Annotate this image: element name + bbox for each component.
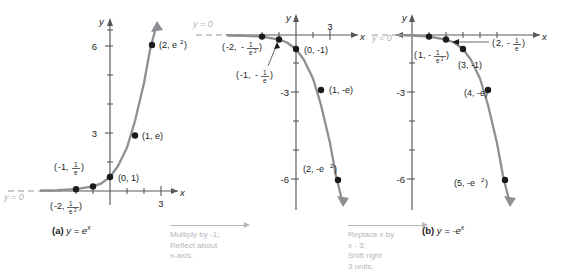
- panel-a-exponential-graph: y x 3 6 3 y = 0 ( -2, 1 ​ e 2 ) ( -1,: [0, 0, 190, 274]
- x-axis-arrowhead-b: [351, 32, 358, 38]
- y-axis-arrowhead-b: [293, 14, 299, 22]
- transition-ab-line3-rest: -axis.: [174, 251, 193, 260]
- point-label-b-2: (0, -1): [304, 45, 328, 55]
- svg-text:1: 1: [249, 41, 253, 48]
- point-label-c-1: ( 2, - 1 e ): [492, 37, 525, 52]
- point-label-c-4-tail: ): [485, 178, 488, 188]
- point-label-b-3: (1, -e): [329, 85, 353, 95]
- svg-text:-1,: -1,: [240, 70, 251, 80]
- svg-text:): ): [446, 50, 449, 60]
- point-label-a-4-tail: ): [184, 40, 187, 50]
- x-axis-label-a: x: [179, 187, 186, 198]
- data-point-c-2: [460, 46, 466, 52]
- exponential-transformation-figure: y x 3 6 3 y = 0 ( -2, 1 ​ e 2 ) ( -1,: [0, 0, 563, 274]
- transition-bc-line1-suffix: by: [384, 230, 395, 239]
- point-label-b-1: ( -1, - 1 e ): [236, 69, 273, 84]
- caption-a-lead: (a): [52, 225, 64, 236]
- y-axis-label-b: y: [285, 12, 292, 23]
- svg-text:-: -: [255, 70, 258, 80]
- x-tick-label-b-3: 3: [327, 21, 332, 32]
- point-label-b-0: ( -2, - 1 e 2 ): [222, 41, 262, 56]
- point-label-a-4-base: (2, e: [159, 40, 177, 50]
- svg-text:-2,: -2,: [226, 42, 237, 52]
- svg-text:2: 2: [254, 49, 257, 54]
- transition-bc-line4: 3 units.: [348, 262, 436, 273]
- svg-text:): ): [522, 38, 525, 48]
- svg-text:2: 2: [441, 57, 444, 62]
- svg-text:(: (: [492, 38, 495, 48]
- asymptote-label-a: y = 0: [3, 192, 24, 202]
- svg-text:2,: 2,: [496, 38, 504, 48]
- svg-text:2: 2: [74, 208, 77, 213]
- transition-b-to-c: Replace x by x - 3; Shift right 3 units.: [348, 221, 436, 272]
- panel-c-svg: y x -3 -6 y = 0 ( 1, - 1 e 2 ) ( 2, - 1: [370, 0, 563, 220]
- data-point-c-4: [502, 177, 508, 183]
- data-point-c-0: [426, 33, 432, 39]
- y-tick-label-c-3: -3: [397, 87, 405, 98]
- svg-text:1: 1: [69, 200, 73, 207]
- transition-ab-line3: x-axis.: [170, 251, 258, 262]
- svg-text:-: -: [241, 42, 244, 52]
- point-label-b-4: (2, -e 2 ): [303, 162, 337, 174]
- curve-arrowhead-b: [337, 196, 349, 207]
- svg-text:-: -: [507, 38, 510, 48]
- panel-b-svg: y x 3 -3 -6 y = 0 ( -2, - 1 e 2 ) ( -1, …: [190, 0, 370, 220]
- leader-arrow-b-1: [274, 42, 280, 49]
- y-tick-label-a-6: 6: [92, 41, 97, 52]
- point-label-a-1: ( -1, 1 e ): [54, 161, 84, 176]
- data-point-c-1: [443, 36, 449, 42]
- data-point-a-1: [90, 183, 96, 189]
- svg-text:e: e: [515, 45, 519, 52]
- point-label-c-2: (3, -1): [458, 60, 482, 70]
- transition-ab-line1: Multiply by -1;: [170, 230, 258, 241]
- data-point-a-4: [149, 42, 155, 48]
- transition-arrow-b-to-c: [348, 221, 436, 229]
- data-point-b-1: [276, 36, 282, 42]
- curve-arrowhead-c: [504, 196, 516, 207]
- svg-text:1: 1: [263, 69, 267, 76]
- svg-text:e: e: [249, 49, 253, 56]
- transition-bc-line1-prefix: Replace: [348, 230, 380, 239]
- x-axis-arrowhead-c: [533, 32, 540, 38]
- point-label-a-2: (0, 1): [118, 173, 139, 183]
- caption-a-exponent: x: [87, 224, 90, 231]
- svg-text:): ): [79, 201, 82, 211]
- transition-bc-line3: Shift right: [348, 251, 436, 262]
- svg-text:(: (: [414, 50, 417, 60]
- transition-bc-line2: x - 3;: [348, 241, 436, 252]
- data-point-b-0: [259, 33, 265, 39]
- caption-a-formula: y = e: [66, 225, 87, 236]
- svg-text:): ): [259, 42, 262, 52]
- point-label-c-4-base: (5, -e: [454, 178, 475, 188]
- y-axis-arrowhead-a: [107, 18, 113, 26]
- svg-text:1: 1: [74, 161, 78, 168]
- svg-text:e: e: [436, 57, 440, 64]
- y-axis-arrowhead-c: [409, 14, 415, 22]
- svg-text:1: 1: [436, 49, 440, 56]
- point-label-c-0: ( 1, - 1 e 2 ): [414, 49, 449, 64]
- transition-ab-line2: Reflect about: [170, 241, 258, 252]
- y-tick-label-b-3: -3: [281, 87, 289, 98]
- svg-text:1: 1: [515, 37, 519, 44]
- point-label-c-4: (5, -e 2 ): [454, 176, 488, 188]
- svg-text:(: (: [236, 70, 239, 80]
- svg-text:1,: 1,: [418, 50, 426, 60]
- svg-text:-: -: [428, 50, 431, 60]
- data-point-a-2: [107, 174, 113, 180]
- transition-bc-line2-rest: - 3;: [352, 241, 366, 250]
- svg-text:-2,: -2,: [54, 201, 65, 211]
- svg-text:(: (: [50, 201, 53, 211]
- panel-a-svg: y x 3 6 3 y = 0 ( -2, 1 ​ e 2 ) ( -1,: [0, 0, 190, 220]
- svg-text:): ): [270, 70, 273, 80]
- y-axis-label-c: y: [401, 12, 408, 23]
- svg-text:-1,: -1,: [58, 162, 69, 172]
- data-point-a-3: [132, 132, 138, 138]
- transition-bc-line1: Replace x by: [348, 230, 436, 241]
- curve-arrowhead-a: [151, 21, 163, 32]
- svg-text:e: e: [69, 208, 73, 215]
- point-label-b-4-tail: ): [334, 164, 337, 174]
- asymptote-label-c: y = 0: [371, 33, 392, 43]
- data-point-b-4: [335, 177, 341, 183]
- y-tick-label-b-6: -6: [281, 174, 289, 185]
- transition-a-to-b: Multiply by -1; Reflect about x-axis.: [170, 221, 258, 262]
